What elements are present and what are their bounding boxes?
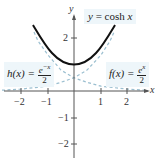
x-tick-neg1: −1 (41, 96, 52, 107)
y-axis-arrow (72, 14, 76, 20)
x-tick-1: 1 (98, 96, 103, 107)
y-tick-neg1: −1 (58, 112, 69, 123)
y-tick-2: 2 (63, 32, 68, 43)
f-label: f(x) = ex2 (106, 62, 149, 87)
y-tick-neg2: −2 (58, 138, 69, 149)
h-label: h(x) = e−x2 (4, 62, 54, 87)
y-axis-label: y (69, 3, 73, 14)
cosh-label: y = cosh x (84, 9, 136, 24)
x-tick-neg2: −2 (14, 96, 25, 107)
x-axis-label: x (150, 84, 154, 95)
x-tick-2: 2 (124, 96, 129, 107)
